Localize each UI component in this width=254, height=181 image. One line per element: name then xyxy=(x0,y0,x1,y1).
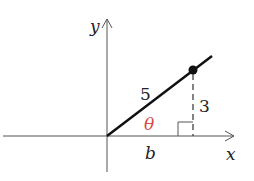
triangle-diagram: y x 5 3 b θ xyxy=(0,0,254,181)
angle-label: θ xyxy=(144,114,154,134)
opposite-label: 3 xyxy=(199,96,210,116)
right-angle-marker xyxy=(178,122,193,136)
hypotenuse-label: 5 xyxy=(140,84,151,104)
adjacent-label: b xyxy=(145,143,156,163)
y-axis-label: y xyxy=(89,16,100,36)
terminal-point xyxy=(189,66,198,75)
x-axis-label: x xyxy=(226,144,236,164)
